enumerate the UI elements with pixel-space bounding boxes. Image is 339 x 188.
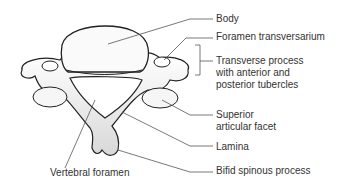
label-transverse-process-line3: posterior tubercles xyxy=(216,79,298,91)
foramen-transversarium-left xyxy=(42,61,58,71)
label-body: Body xyxy=(216,13,239,25)
vertebra-illustration xyxy=(0,0,339,188)
label-foramen-transversarium: Foramen transversarium xyxy=(216,31,325,43)
label-lamina: Lamina xyxy=(216,141,249,153)
articular-facet-left xyxy=(33,87,67,107)
label-superior-facet-line1: Superior xyxy=(216,109,254,121)
label-superior-facet-line2: articular facet xyxy=(216,121,276,133)
articular-facet-right xyxy=(142,88,178,108)
label-transverse-process-line1: Transverse process xyxy=(216,55,303,67)
label-bifid-spinous-process: Bifid spinous process xyxy=(216,165,311,177)
label-vertebral-foramen: Vertebral foramen xyxy=(50,167,130,179)
vertebral-body xyxy=(61,26,148,72)
foramen-transversarium-right xyxy=(154,57,170,67)
label-transverse-process-line2: with anterior and xyxy=(216,67,290,79)
